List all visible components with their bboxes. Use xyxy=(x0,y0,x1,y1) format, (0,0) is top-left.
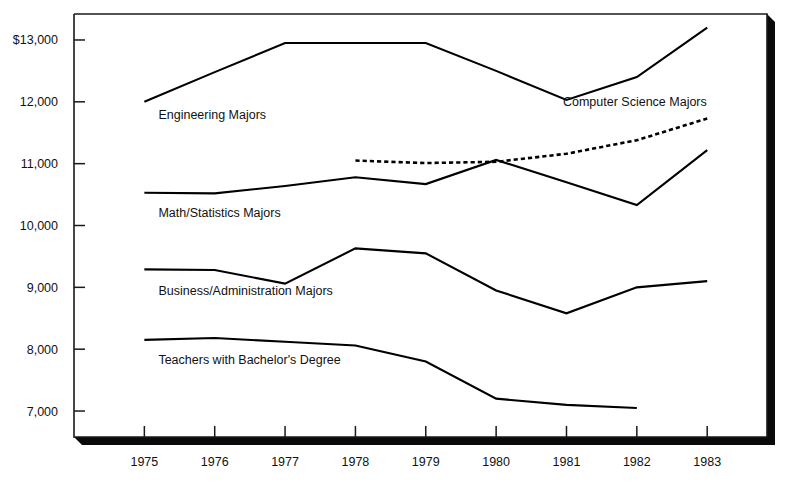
x-tick-label: 1980 xyxy=(482,455,510,469)
frame-drop-shadow xyxy=(74,14,775,445)
y-tick-label: 8,000 xyxy=(27,343,58,357)
series-inline-labels: Engineering MajorsMath/Statistics Majors… xyxy=(158,95,706,367)
series-line-3 xyxy=(144,338,636,408)
x-tick-label: 1978 xyxy=(342,455,370,469)
x-tick-label: 1977 xyxy=(271,455,299,469)
line-chart: $13,00012,00011,00010,0009,0008,0007,000… xyxy=(0,0,796,481)
x-tick-label: 1976 xyxy=(201,455,229,469)
x-axis-tick-labels: 197519761977197819791980198119821983 xyxy=(130,455,721,469)
x-tick-label: 1975 xyxy=(130,455,158,469)
x-axis-ticks xyxy=(144,426,707,437)
series-label-2: Business/Administration Majors xyxy=(158,284,332,298)
y-tick-label: 12,000 xyxy=(20,95,58,109)
series-line-2 xyxy=(144,248,707,313)
series-line-1 xyxy=(144,150,707,205)
y-axis-tick-labels: $13,00012,00011,00010,0009,0008,0007,000 xyxy=(13,33,58,418)
x-tick-label: 1979 xyxy=(412,455,440,469)
y-tick-label: $13,000 xyxy=(13,33,58,47)
x-tick-label: 1981 xyxy=(553,455,581,469)
series-line-0 xyxy=(144,28,707,102)
y-tick-label: 9,000 xyxy=(27,281,58,295)
series-label-1: Math/Statistics Majors xyxy=(158,206,280,220)
y-tick-label: 11,000 xyxy=(21,157,58,171)
series-label-4: Computer Science Majors xyxy=(563,95,707,109)
chart-canvas: $13,00012,00011,00010,0009,0008,0007,000… xyxy=(0,0,796,481)
y-tick-label: 7,000 xyxy=(27,405,58,419)
plot-frame xyxy=(74,14,767,437)
series-label-0: Engineering Majors xyxy=(158,108,266,122)
series-line-4 xyxy=(355,119,707,164)
series-label-3: Teachers with Bachelor's Degree xyxy=(158,353,340,367)
x-tick-label: 1983 xyxy=(693,455,721,469)
y-tick-label: 10,000 xyxy=(20,219,58,233)
y-axis-ticks xyxy=(74,40,85,411)
x-tick-label: 1982 xyxy=(623,455,651,469)
